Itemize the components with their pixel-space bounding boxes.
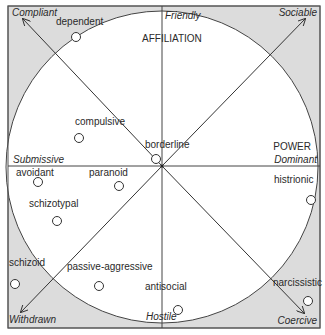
label-borderline: borderline [145, 139, 190, 150]
label-antisocial: antisocial [145, 281, 187, 292]
center-point [161, 165, 164, 168]
marker-passive-aggressive [95, 282, 104, 291]
marker-dependent [72, 33, 81, 42]
axis-label-hostile: Hostile [146, 311, 177, 322]
label-schizoid: schizoid [9, 257, 45, 268]
label-avoidant: avoidant [16, 167, 54, 178]
label-compulsive: compulsive [75, 116, 125, 127]
interpersonal-circumplex-diagram: Compliant Sociable Withdrawn Coercive Fr… [0, 0, 325, 335]
label-histrionic: histrionic [274, 174, 313, 185]
axis-label-friendly: Friendly [165, 10, 202, 21]
marker-paranoid [115, 182, 124, 191]
marker-schizotypal [53, 217, 62, 226]
marker-compulsive [75, 134, 84, 143]
marker-narcissistic [304, 297, 313, 306]
axis-label-dominant: Dominant [274, 154, 318, 165]
label-narcissistic: narcissistic [273, 277, 322, 288]
corner-label-sociable: Sociable [279, 7, 318, 18]
marker-schizoid [11, 280, 20, 289]
axis-label-submissive: Submissive [13, 154, 65, 165]
marker-avoidant [34, 178, 43, 187]
corner-label-withdrawn: Withdrawn [9, 314, 57, 325]
label-schizotypal: schizotypal [29, 198, 78, 209]
affiliation-title: AFFILIATION [142, 33, 202, 44]
label-passive-aggressive: passive-aggressive [67, 261, 153, 272]
marker-histrionic [307, 196, 316, 205]
marker-borderline [152, 155, 161, 164]
marker-antisocial [174, 306, 183, 315]
corner-label-compliant: Compliant [12, 7, 58, 18]
label-dependent: dependent [56, 16, 103, 27]
label-paranoid: paranoid [89, 167, 128, 178]
corner-label-coercive: Coercive [278, 315, 318, 326]
power-title: POWER [273, 141, 311, 152]
